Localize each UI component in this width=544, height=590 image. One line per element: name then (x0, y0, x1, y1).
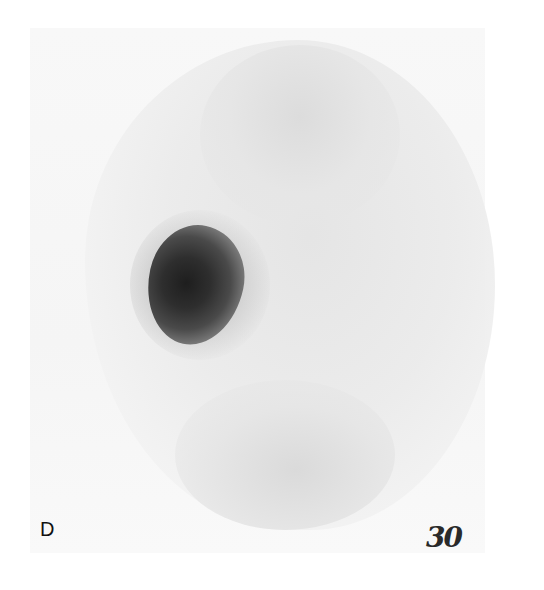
panel-label: D (40, 519, 54, 539)
lower-activity-region (175, 380, 395, 530)
handwritten-annotation: 30 (426, 524, 461, 552)
upper-activity-region (200, 45, 400, 225)
